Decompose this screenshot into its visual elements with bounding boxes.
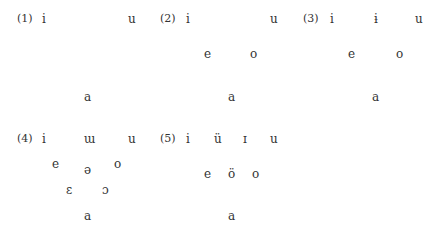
vowel-symbol: a — [228, 209, 235, 223]
vowel-symbol: u — [128, 12, 136, 26]
vowel-symbol: ɛ — [66, 183, 72, 197]
vowel-symbol: a — [84, 209, 91, 223]
vowel-symbol: u — [415, 12, 423, 26]
vowel-symbol: ü — [214, 132, 222, 146]
vowel-symbol: e — [204, 47, 211, 61]
system-label: (1) — [17, 12, 33, 26]
vowel-symbol: ɨ — [374, 12, 378, 26]
vowel-symbol: e — [52, 157, 59, 171]
vowel-symbol: a — [228, 90, 235, 104]
vowel-symbol: u — [270, 132, 278, 146]
vowel-symbol: i — [330, 12, 334, 26]
system-label: (5) — [160, 132, 176, 146]
vowel-symbol: i — [186, 12, 190, 26]
vowel-symbol: o — [252, 167, 259, 181]
vowel-symbol: o — [396, 47, 403, 61]
vowel-symbol: u — [270, 12, 278, 26]
vowel-symbol: ə — [84, 163, 91, 177]
vowel-symbol: i — [186, 132, 190, 146]
vowel-symbol: i — [42, 12, 46, 26]
vowel-symbol: u — [128, 132, 136, 146]
vowel-symbol: e — [204, 167, 211, 181]
system-label: (3) — [303, 12, 319, 26]
system-label: (2) — [160, 12, 176, 26]
vowel-symbol: e — [348, 47, 355, 61]
vowel-symbol: i — [42, 132, 46, 146]
system-label: (4) — [17, 132, 33, 146]
vowel-symbol: ö — [228, 167, 235, 181]
vowel-symbol: o — [114, 157, 121, 171]
vowel-symbol: o — [250, 47, 257, 61]
vowel-symbol: ɪ — [243, 132, 247, 146]
vowel-symbol: ɔ — [102, 183, 109, 197]
vowel-symbol: ɯ — [84, 132, 95, 146]
vowel-symbol: a — [84, 90, 91, 104]
vowel-symbol: a — [372, 90, 379, 104]
